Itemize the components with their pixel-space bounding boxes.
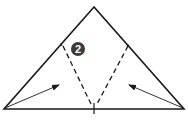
fold-arrow-left	[5, 85, 59, 108]
step-number-badge: 2	[71, 42, 85, 56]
fold-diagram-svg	[0, 0, 188, 121]
fold-diagram: 2	[0, 0, 188, 121]
fold-arrow-right	[129, 85, 183, 108]
paper-triangle	[4, 7, 184, 109]
valley-fold-line-right	[97, 46, 128, 104]
